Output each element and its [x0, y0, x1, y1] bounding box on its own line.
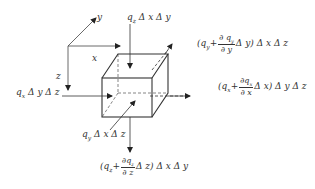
qy-out-arrow — [165, 44, 172, 54]
qx-in-label: qx Δ y Δ z — [16, 87, 59, 99]
qy-in-label: qy Δ x Δ z — [82, 129, 125, 141]
cube — [102, 54, 168, 117]
qy-in-arrow — [110, 101, 135, 130]
qx-out-label: (qx+∂qx∂ xΔ x) Δ y Δ z — [218, 76, 307, 97]
qy-out-label: (qy+∂ qy∂ yΔ y) Δ x Δ z — [197, 33, 288, 54]
x-axis-label: x — [92, 54, 97, 63]
qz-in-label: qz Δ x Δ y — [127, 12, 171, 24]
z-axis-label: z — [56, 72, 61, 81]
qz-out-label: (qz+∂qz∂ zΔ z) Δ x Δ y — [100, 156, 188, 177]
cube-front-face — [102, 78, 152, 117]
y-axis — [68, 18, 96, 46]
y-axis-label: y — [97, 13, 102, 22]
